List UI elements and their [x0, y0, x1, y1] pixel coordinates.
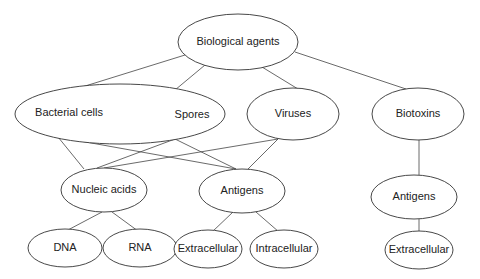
edge-root-biotoxins	[295, 52, 406, 89]
edge-root-bacterial	[82, 55, 185, 87]
node-biological-agents: Biological agents	[178, 14, 298, 70]
node-label: Extracellular	[389, 243, 450, 255]
node-label: Nucleic acids	[72, 183, 137, 195]
edge-root-viruses	[262, 67, 298, 89]
node-label: Viruses	[275, 107, 312, 119]
node-label: DNA	[53, 241, 77, 253]
node-label-bacterial-cells: Bacterial cells	[35, 106, 103, 118]
node-bacterial-cells-spores: Bacterial cells Spores	[15, 84, 225, 144]
node-dna: DNA	[28, 229, 102, 267]
node-label: Antigens	[393, 190, 436, 202]
node-label: RNA	[128, 241, 152, 253]
edge-antigens-intracellular	[256, 212, 279, 232]
node-label: Antigens	[221, 184, 264, 196]
node-rna: RNA	[103, 229, 177, 267]
edge-antigens-extracellular	[212, 212, 233, 232]
node-label: Biotoxins	[396, 107, 441, 119]
node-extracellular-right: Extracellular	[385, 231, 453, 269]
edge-nucleic-acids-rna	[112, 212, 138, 231]
biological-agents-diagram: Biological agents Bacterial cells Spores…	[0, 0, 480, 279]
node-biotoxins: Biotoxins	[372, 88, 464, 140]
node-label: Extracellular	[178, 242, 239, 254]
node-intracellular-middle: Intracellular	[250, 230, 318, 268]
node-extracellular-middle: Extracellular	[174, 230, 242, 268]
edge-spores-antigens	[175, 139, 236, 169]
edge-nucleic-acids-dna	[66, 212, 102, 231]
node-label-spores: Spores	[175, 108, 210, 120]
node-nucleic-acids: Nucleic acids	[61, 168, 147, 212]
node-antigens-middle: Antigens	[199, 169, 285, 213]
node-antigens-right: Antigens	[371, 175, 457, 219]
node-viruses: Viruses	[247, 88, 339, 140]
node-label: Intracellular	[256, 242, 313, 254]
edge-root-spores	[175, 65, 205, 90]
node-label: Biological agents	[196, 35, 280, 47]
